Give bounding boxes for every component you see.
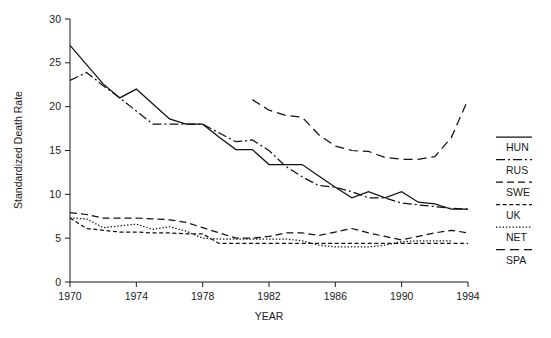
x-tick-label: 1986 — [324, 290, 348, 302]
legend-label-uk: UK — [506, 209, 521, 221]
x-axis-title-text: YEAR — [255, 310, 284, 322]
x-tick-label: 1994 — [456, 290, 480, 302]
chart-figure: Standardized Death Rate YEAR 05101520253… — [0, 0, 551, 338]
y-axis-title-text: Standardized Death Rate — [12, 91, 24, 209]
legend-label-spa: SPA — [506, 254, 526, 266]
x-tick-group: 1970197419781982198619901994 — [58, 282, 480, 302]
y-tick-group: 051015202530 — [49, 13, 70, 288]
y-tick-label: 30 — [49, 13, 61, 25]
series-line-spa — [252, 100, 468, 160]
y-axis-title: Standardized Death Rate — [12, 91, 24, 209]
line-chart: Standardized Death Rate YEAR 05101520253… — [0, 0, 551, 338]
legend-label-net: NET — [506, 231, 528, 243]
y-tick-label: 5 — [55, 232, 61, 244]
legend-label-rus: RUS — [506, 164, 528, 176]
series-line-uk — [70, 218, 468, 243]
x-tick-label: 1990 — [390, 290, 414, 302]
y-tick-label: 10 — [49, 188, 61, 200]
y-tick-label: 20 — [49, 100, 61, 112]
legend-label-hun: HUN — [506, 141, 529, 153]
x-tick-label: 1974 — [125, 290, 149, 302]
series-line-hun — [70, 45, 468, 209]
y-tick-label: 15 — [49, 144, 61, 156]
x-tick-label: 1982 — [257, 290, 281, 302]
x-axis-title: YEAR — [255, 310, 284, 322]
y-tick-label: 25 — [49, 56, 61, 68]
x-tick-label: 1970 — [58, 290, 82, 302]
legend: HUNRUSSWEUKNETSPA — [496, 137, 532, 266]
y-tick-label: 0 — [55, 276, 61, 288]
plot-series-group — [70, 45, 468, 247]
legend-label-swe: SWE — [506, 186, 530, 198]
x-tick-label: 1978 — [191, 290, 215, 302]
series-line-swe — [70, 213, 468, 240]
